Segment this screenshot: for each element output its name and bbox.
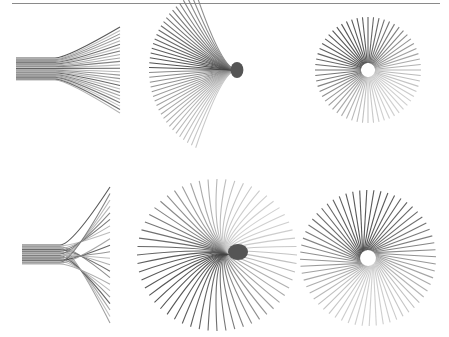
figure-canvas [0, 0, 449, 337]
panel-top-right [315, 17, 421, 123]
panel-top-middle [149, 0, 243, 148]
panel-bottom-right [300, 190, 436, 326]
panel-bottom-middle [137, 179, 297, 331]
panel-top-left [16, 27, 120, 113]
panel-bottom-left [22, 187, 110, 323]
